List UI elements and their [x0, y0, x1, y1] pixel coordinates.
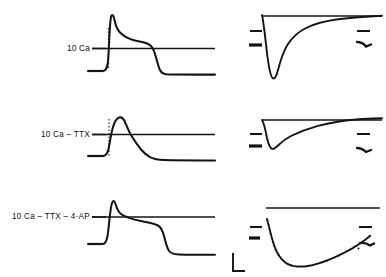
action-potential-trace-row-0: [88, 15, 215, 75]
action-potential-trace-row-2: [88, 201, 215, 255]
panel-left-row-1: [88, 117, 215, 160]
action-potential-trace-row-1: [88, 117, 215, 160]
hook-artifact-row-1: [357, 148, 371, 152]
panel-right-row-1: [249, 118, 382, 152]
panel-left-row-0: [88, 15, 215, 75]
figure-root: 10 Ca 10 Ca – TTX 10 Ca – TTX – 4·AP: [0, 0, 386, 277]
current-trace-row-2: [267, 219, 371, 267]
current-trace-row-0: [262, 15, 382, 79]
panel-right-row-0: [249, 15, 382, 79]
scale-bar: [233, 253, 245, 271]
scale-bar-L-shape: [233, 253, 245, 271]
panel-left-row-2: [88, 201, 215, 255]
figure-canvas: [0, 0, 386, 277]
panel-right-row-2: [249, 208, 380, 267]
hook-artifact-row-0: [357, 42, 371, 47]
noise-speck-row-2: [358, 248, 360, 250]
